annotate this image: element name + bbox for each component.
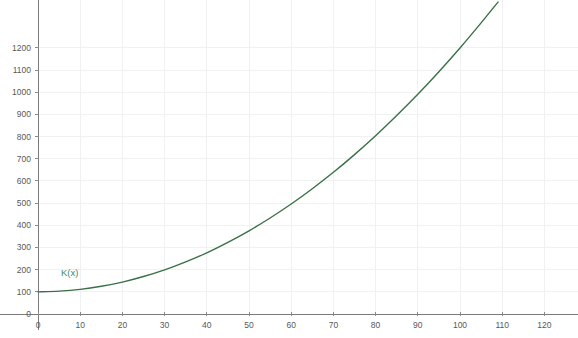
y-tick-label: 1200 (12, 43, 31, 53)
x-tick-label: 40 (202, 320, 212, 330)
y-tick-label: 600 (17, 176, 31, 186)
x-tick-label: 100 (453, 320, 467, 330)
x-axis-tick-labels: 0102030405060708090100110120 (36, 320, 552, 330)
line-chart-plot: 0100200300400500600700800900100011001200… (0, 0, 578, 338)
y-tick-label: 900 (17, 109, 31, 119)
series-annotation-kx: K(x) (61, 267, 78, 278)
x-tick-label: 110 (495, 320, 509, 330)
y-axis-tick-labels: 0100200300400500600700800900100011001200 (12, 43, 31, 319)
chart-container: 0100200300400500600700800900100011001200… (0, 0, 578, 338)
x-tick-label: 120 (537, 320, 551, 330)
y-tick-label: 0 (26, 309, 31, 319)
x-tick-label: 20 (118, 320, 128, 330)
x-tick-label: 90 (413, 320, 423, 330)
x-tick-label: 60 (286, 320, 296, 330)
x-tick-label: 30 (160, 320, 170, 330)
x-tick-label: 10 (75, 320, 85, 330)
y-tick-label: 800 (17, 132, 31, 142)
x-tick-label: 50 (244, 320, 254, 330)
vertical-gridlines (80, 0, 544, 314)
x-tick-label: 80 (371, 320, 381, 330)
y-tick-label: 200 (17, 265, 31, 275)
y-tick-label: 100 (17, 287, 31, 297)
x-tick-label: 0 (36, 320, 41, 330)
series-line-kx (38, 2, 498, 292)
horizontal-gridlines (38, 48, 578, 292)
y-tick-label: 500 (17, 198, 31, 208)
x-tick-label: 70 (329, 320, 339, 330)
y-tick-label: 700 (17, 154, 31, 164)
y-tick-label: 1100 (13, 65, 32, 75)
y-tick-label: 300 (17, 242, 31, 252)
y-tick-label: 400 (17, 220, 31, 230)
y-tick-label: 1000 (12, 87, 31, 97)
